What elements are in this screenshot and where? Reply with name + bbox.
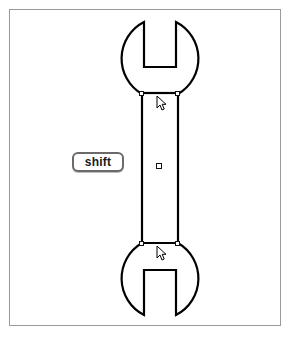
handle-top-left[interactable]: [139, 91, 144, 96]
handle-center[interactable]: [156, 163, 162, 169]
shift-key-badge: shift: [72, 152, 124, 172]
canvas-frame[interactable]: shift: [9, 9, 281, 326]
editor-canvas-screen: shift: [0, 0, 292, 339]
wrench-shape[interactable]: [10, 10, 281, 326]
handle-bottom-right[interactable]: [175, 241, 180, 246]
shift-key-label: shift: [85, 156, 111, 168]
cursor-arrow-lower: [156, 245, 167, 261]
handle-top-right[interactable]: [175, 91, 180, 96]
handle-bottom-left[interactable]: [139, 241, 144, 246]
wrench-head-top: [122, 22, 199, 94]
cursor-arrow-upper: [156, 95, 167, 111]
artwork-layer: [10, 10, 281, 326]
